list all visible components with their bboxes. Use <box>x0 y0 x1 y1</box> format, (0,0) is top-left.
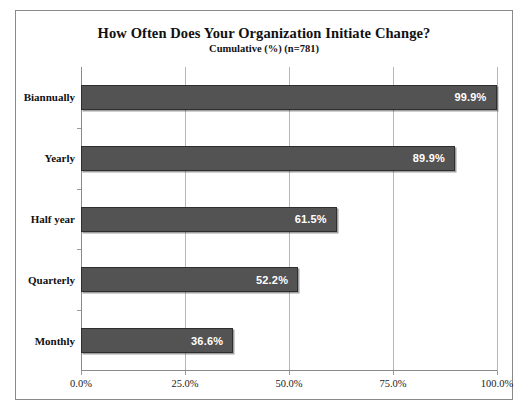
bar-value-label: 36.6% <box>191 335 232 347</box>
y-axis-tick <box>77 128 81 129</box>
gridline <box>497 67 498 371</box>
y-axis-tick <box>77 189 81 190</box>
y-axis-label: Yearly <box>44 153 75 164</box>
x-axis-tick <box>81 371 82 375</box>
y-axis-tick <box>77 310 81 311</box>
x-axis-label: 75.0% <box>379 378 406 389</box>
chart-title: How Often Does Your Organization Initiat… <box>16 25 512 42</box>
bar[interactable]: 36.6% <box>81 328 233 353</box>
y-axis-tick <box>77 249 81 250</box>
bar[interactable]: 89.9% <box>81 146 455 171</box>
y-axis-label: Monthly <box>35 335 75 346</box>
bar-value-label: 89.9% <box>413 152 454 164</box>
chart-frame: How Often Does Your Organization Initiat… <box>15 10 513 400</box>
bar[interactable]: 61.5% <box>81 207 337 232</box>
chart-subtitle: Cumulative (%) (n=781) <box>16 43 512 54</box>
x-axis-tick <box>393 371 394 375</box>
bar-value-label: 99.9% <box>454 91 495 103</box>
x-axis-tick <box>497 371 498 375</box>
x-axis-label: 100.0% <box>481 378 513 389</box>
plot-area: BiannuallyYearlyHalf yearQuarterlyMonthl… <box>81 67 497 371</box>
x-axis-tick <box>185 371 186 375</box>
gridline <box>393 67 394 371</box>
y-axis-label: Biannually <box>24 92 75 103</box>
bar[interactable]: 99.9% <box>81 85 497 110</box>
y-axis-label: Half year <box>31 214 75 225</box>
x-axis-label: 25.0% <box>171 378 198 389</box>
bar[interactable]: 52.2% <box>81 267 298 292</box>
y-axis-label: Quarterly <box>28 274 75 285</box>
x-axis-tick <box>289 371 290 375</box>
x-axis-label: 50.0% <box>275 378 302 389</box>
x-axis-label: 0.0% <box>70 378 92 389</box>
bar-value-label: 52.2% <box>256 274 297 286</box>
bar-value-label: 61.5% <box>295 213 336 225</box>
